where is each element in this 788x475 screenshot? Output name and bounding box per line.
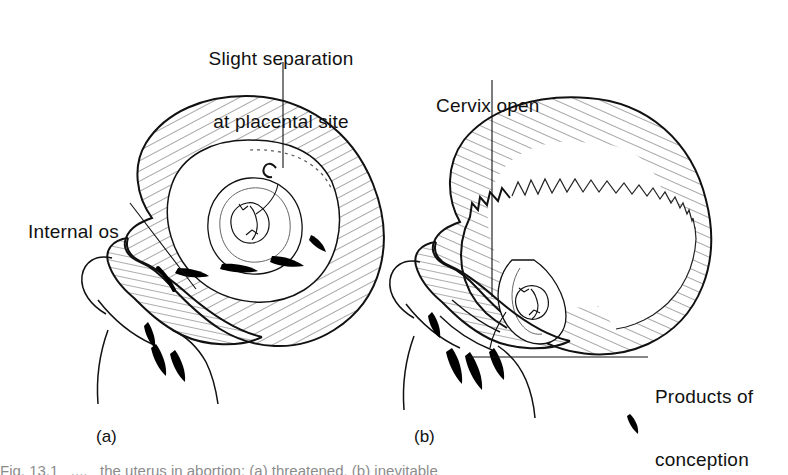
annotation-products-of-conception: Products of conception extruding xyxy=(655,344,788,475)
panel-label-b: (b) xyxy=(414,428,435,446)
annotation-slight-separation: Slight separation at placental site xyxy=(193,6,369,174)
fetus-b xyxy=(516,286,549,320)
annotation-internal-os: Internal os xyxy=(28,179,148,284)
figure-caption-partial: Fig. 13.1 .... the uterus in abortion: (… xyxy=(0,462,788,475)
annotation-slight-separation-line1: Slight separation xyxy=(193,48,369,69)
panel-label-a: (a) xyxy=(96,428,117,446)
annotation-products-line1: Products of xyxy=(655,386,788,407)
annotation-slight-separation-line2: at placental site xyxy=(193,111,369,132)
figure-root: Slight separation at placental site Inte… xyxy=(0,0,788,475)
annotation-cervix-open-line1: Cervix open xyxy=(436,95,566,116)
annotation-cervix-open: Cervix open xyxy=(436,53,566,158)
annotation-internal-os-line1: Internal os xyxy=(28,221,148,242)
